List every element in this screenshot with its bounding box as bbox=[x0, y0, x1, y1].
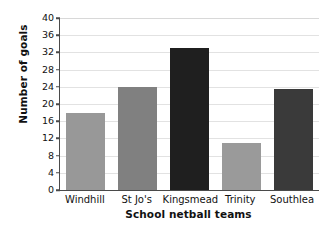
y-axis-tick-label: 36 bbox=[42, 30, 54, 40]
y-axis-tick-label: 0 bbox=[48, 185, 54, 195]
bar-chart: Number of goals 0481216202428323640 Wind… bbox=[0, 0, 331, 236]
y-axis-tick-label: 32 bbox=[42, 48, 54, 58]
x-axis-tick-labels: WindhillSt Jo'sKingsmeadTrinitySouthlea bbox=[59, 193, 318, 209]
y-axis-tick-mark bbox=[56, 34, 60, 36]
y-axis-tick-label: 40 bbox=[42, 13, 54, 23]
y-axis-tick-mark bbox=[56, 17, 60, 19]
bar bbox=[118, 87, 157, 190]
y-axis-tick-label: 16 bbox=[42, 116, 54, 126]
y-axis-tick-label: 8 bbox=[48, 151, 54, 161]
x-axis-tick-label: Southlea bbox=[266, 193, 318, 206]
plot-area: 0481216202428323640 bbox=[59, 18, 319, 191]
y-axis-tick-mark bbox=[56, 52, 60, 54]
bar bbox=[170, 48, 209, 190]
y-axis-tick-mark bbox=[56, 189, 60, 191]
y-axis-tick-mark bbox=[56, 155, 60, 157]
x-axis-tick-label: Trinity bbox=[214, 193, 266, 206]
y-axis-tick-mark bbox=[56, 103, 60, 105]
y-axis-tick-label: 24 bbox=[42, 82, 54, 92]
y-axis-title: Number of goals bbox=[17, 4, 29, 144]
y-axis-tick-label: 4 bbox=[48, 168, 54, 178]
x-axis-tick-label: Kingsmead bbox=[163, 193, 215, 206]
x-axis-tick-label: St Jo's bbox=[111, 193, 163, 206]
bar-series bbox=[60, 18, 319, 190]
bar bbox=[274, 89, 313, 190]
y-axis-tick-mark bbox=[56, 172, 60, 174]
y-axis-tick-label: 28 bbox=[42, 65, 54, 75]
y-axis-tick-mark bbox=[56, 120, 60, 122]
y-axis-tick-mark bbox=[56, 86, 60, 88]
y-axis-tick-label: 20 bbox=[42, 99, 54, 109]
y-axis-tick-label: 12 bbox=[42, 134, 54, 144]
bar bbox=[222, 143, 261, 190]
y-axis-tick-mark bbox=[56, 69, 60, 71]
x-axis-tick-label: Windhill bbox=[59, 193, 111, 206]
bar bbox=[66, 113, 105, 190]
y-axis-tick-mark bbox=[56, 138, 60, 140]
x-axis-title: School netball teams bbox=[59, 208, 318, 220]
